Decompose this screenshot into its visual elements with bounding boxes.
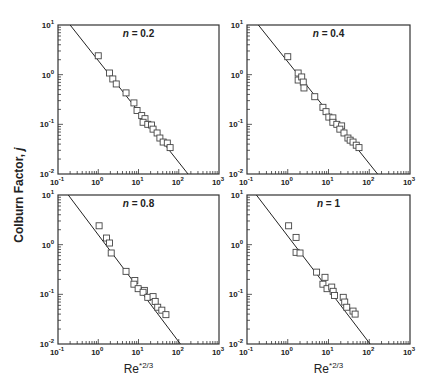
tick-label: 100 bbox=[281, 346, 294, 357]
data-point bbox=[293, 234, 299, 240]
data-point bbox=[96, 223, 102, 229]
data-point bbox=[163, 312, 169, 318]
data-point bbox=[123, 90, 129, 96]
tick-label: 10-1 bbox=[50, 176, 65, 187]
data-point bbox=[286, 223, 292, 229]
tick-label: 100 bbox=[231, 69, 244, 80]
tick-label: 100 bbox=[91, 176, 104, 187]
panel-annotation: n = 0.4 bbox=[313, 28, 345, 39]
tick-label: 10-1 bbox=[40, 288, 55, 299]
plot-frame bbox=[58, 195, 219, 344]
data-point bbox=[106, 240, 112, 246]
data-point bbox=[331, 292, 337, 298]
tick-label: 101 bbox=[131, 346, 144, 357]
x-axis-label: Re*2/3 bbox=[124, 361, 154, 376]
tick-label: 103 bbox=[212, 176, 225, 187]
panel-bottom-right: 10-110010110210310-210-1100101n = 1Re*2/… bbox=[229, 189, 416, 376]
tick-label: 10-1 bbox=[239, 346, 254, 357]
data-point bbox=[297, 250, 303, 256]
tick-label: 101 bbox=[231, 189, 244, 200]
panel-top-right: 10-110010110210310-210-1100101n = 0.4 bbox=[229, 19, 416, 187]
data-point bbox=[123, 268, 129, 274]
tick-label: 100 bbox=[42, 239, 55, 250]
tick-label: 10-1 bbox=[239, 176, 254, 187]
tick-label: 101 bbox=[42, 19, 55, 30]
tick-label: 102 bbox=[362, 176, 375, 187]
y-axis-label: Colburn Factor, j bbox=[12, 147, 26, 242]
tick-label: 100 bbox=[91, 346, 104, 357]
tick-label: 101 bbox=[321, 176, 334, 187]
tick-label: 100 bbox=[42, 69, 55, 80]
panel-annotation: n = 1 bbox=[317, 198, 341, 209]
tick-label: 103 bbox=[212, 346, 225, 357]
data-point bbox=[322, 274, 328, 280]
data-point bbox=[152, 298, 158, 304]
tick-label: 10-1 bbox=[40, 118, 55, 129]
tick-label: 100 bbox=[281, 176, 294, 187]
tick-label: 102 bbox=[362, 346, 375, 357]
tick-label: 103 bbox=[403, 346, 416, 357]
data-point bbox=[312, 94, 318, 100]
plot-frame bbox=[247, 195, 410, 344]
y-axis-label-text: Colburn Factor, bbox=[12, 151, 26, 243]
tick-label: 103 bbox=[403, 176, 416, 187]
panel-annotation: n = 0.8 bbox=[123, 198, 155, 209]
data-point bbox=[301, 85, 307, 91]
figure-canvas: 10-110010110210310-210-1100101n = 0.210-… bbox=[0, 0, 436, 391]
tick-label: 102 bbox=[172, 346, 185, 357]
panel-bottom-left: 10-110010110210310-210-1100101n = 0.8Re*… bbox=[40, 189, 225, 376]
panel-annotation: n = 0.2 bbox=[123, 28, 155, 39]
data-point bbox=[113, 81, 119, 87]
data-point bbox=[285, 54, 291, 60]
data-point bbox=[356, 145, 362, 151]
data-point bbox=[352, 311, 358, 317]
tick-label: 10-1 bbox=[229, 118, 244, 129]
data-point bbox=[108, 250, 114, 256]
tick-label: 100 bbox=[231, 239, 244, 250]
y-axis-label-var: j bbox=[12, 147, 26, 150]
tick-label: 101 bbox=[321, 346, 334, 357]
data-point bbox=[167, 145, 173, 151]
data-point bbox=[300, 79, 306, 85]
x-axis-label: Re*2/3 bbox=[314, 361, 344, 376]
fit-line bbox=[70, 25, 188, 174]
data-point bbox=[344, 304, 350, 310]
tick-label: 101 bbox=[42, 189, 55, 200]
data-point bbox=[131, 100, 137, 106]
plot-frame bbox=[247, 25, 410, 174]
tick-label: 10-1 bbox=[50, 346, 65, 357]
tick-label: 10-1 bbox=[229, 288, 244, 299]
tick-label: 102 bbox=[172, 176, 185, 187]
data-point bbox=[314, 269, 320, 275]
tick-label: 101 bbox=[131, 176, 144, 187]
panel-top-left: 10-110010110210310-210-1100101n = 0.2 bbox=[40, 19, 225, 187]
tick-label: 101 bbox=[231, 19, 244, 30]
data-point bbox=[95, 53, 101, 59]
plot-frame bbox=[58, 25, 219, 174]
data-point bbox=[106, 70, 112, 76]
